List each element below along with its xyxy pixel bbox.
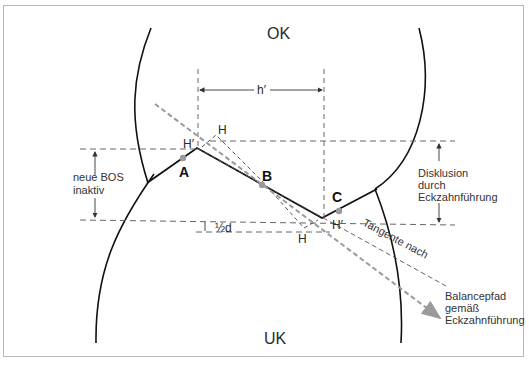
tangent-label: Tangente nach [361, 216, 430, 260]
h-prime-left-label: H′ [183, 137, 195, 151]
upper-h-triangle [202, 135, 262, 181]
neue-bos-label-line1: neue BOS [73, 171, 124, 183]
lower-jaw-label: UK [264, 330, 287, 347]
balance-label-line1: Balancepfad [445, 290, 506, 302]
balance-label-line2: gemäß [445, 302, 480, 314]
h-lower-label: H [298, 232, 307, 246]
disklusion-label-line3: Eckzahnführung [418, 191, 498, 203]
point-c-label: C [332, 189, 342, 205]
lower-jaw-right-contour [375, 189, 402, 343]
lower-jaw-left-contour [96, 174, 154, 343]
neue-bos-label-line2: inaktiv [73, 184, 105, 196]
h-upper-label: H [218, 123, 227, 137]
balance-label-line3: Eckzahnführung [445, 314, 525, 326]
point-a-marker [180, 155, 186, 161]
h-prime-label: h′ [257, 83, 267, 97]
h-prime-right-label: H′ [332, 218, 344, 232]
upper-jaw-label: OK [267, 25, 290, 42]
occlusion-diagram: h′ A B C H H′ H H′ ½d Tangente nach neue… [0, 0, 529, 365]
point-a-label: A [179, 164, 189, 180]
upper-jaw-left-contour [135, 28, 151, 183]
upper-jaw-right-contour [375, 28, 425, 189]
disklusion-label-line2: durch [418, 179, 446, 191]
balance-path-arrow [155, 104, 440, 318]
point-b-label: B [262, 168, 272, 184]
half-d-label: ½d [215, 221, 232, 235]
point-c-marker [336, 208, 342, 214]
disklusion-label-line1: Disklusion [418, 167, 468, 179]
lower-reference-line [80, 220, 455, 225]
